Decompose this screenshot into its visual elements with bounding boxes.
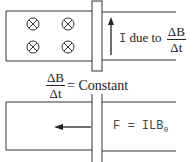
field-into-page-icon — [27, 41, 39, 53]
top-fraction-numerator: ΔB — [167, 25, 186, 40]
current-symbol: I — [119, 32, 126, 46]
middle-fraction: ΔB Δt — [46, 71, 65, 100]
top-sliding-bar — [92, 1, 102, 71]
equation-rhs: = Constant — [67, 78, 128, 94]
field-into-page-icon — [62, 41, 74, 53]
bottom-left-loop — [6, 102, 97, 150]
force-label: F = ILB0 — [113, 119, 168, 134]
current-label: I due to ΔB Δt — [119, 25, 186, 54]
magnetic-field-into-page — [27, 18, 74, 53]
bottom-sliding-bar — [92, 93, 102, 162]
top-fraction: ΔB Δt — [167, 25, 186, 54]
force-arrowhead-icon — [54, 124, 63, 130]
middle-fraction-denominator: Δt — [50, 86, 62, 100]
top-left-loop — [6, 11, 97, 61]
field-into-page-icon — [27, 18, 39, 30]
top-fraction-denominator: Δt — [170, 40, 182, 54]
force-equation: F = ILB — [113, 119, 163, 133]
middle-fraction-numerator: ΔB — [46, 71, 65, 86]
constant-rate-equation: ΔB Δt = Constant — [46, 71, 128, 100]
current-arrowhead-icon — [108, 17, 114, 25]
current-cause-text: due to — [129, 30, 161, 45]
field-into-page-icon — [62, 18, 74, 30]
force-subscript: 0 — [163, 125, 168, 134]
